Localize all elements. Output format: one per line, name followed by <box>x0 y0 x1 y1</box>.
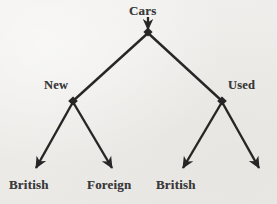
node-label-new-foreign: Foreign <box>87 178 132 191</box>
edge-new-british <box>36 102 73 168</box>
node-label-used: Used <box>228 79 255 92</box>
edge-used-british <box>183 102 222 168</box>
node-label-cars: Cars <box>129 4 157 17</box>
edge-new-foreign <box>73 102 112 168</box>
node-label-used-british: British <box>156 178 196 191</box>
edge-used-unlabeled <box>222 102 259 168</box>
edge-cars-new <box>73 33 148 101</box>
tree-graphic <box>0 0 277 204</box>
edge-cars-used <box>148 33 222 101</box>
node-label-new: New <box>44 79 68 92</box>
node-label-new-british: British <box>9 178 49 191</box>
cars-tree-diagram: Cars New Used British Foreign British <box>0 0 277 204</box>
